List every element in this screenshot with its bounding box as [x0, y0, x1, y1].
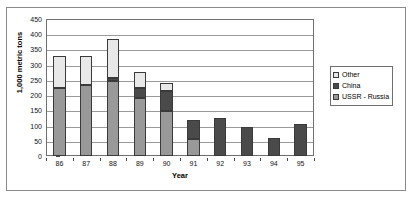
- chart-figure: 050100150200250300350400450 1,000 metric…: [0, 0, 413, 199]
- y-tick-label: 0: [38, 153, 42, 160]
- x-tick-mark: [260, 158, 261, 161]
- gridline: [47, 96, 313, 97]
- legend-item[interactable]: China: [333, 81, 389, 91]
- gridline: [47, 81, 313, 82]
- legend-item[interactable]: USSR - Russia: [333, 92, 389, 102]
- x-tick-mark: [234, 158, 235, 161]
- x-tick-label: 91: [180, 160, 207, 167]
- x-tick-mark: [207, 158, 208, 161]
- x-tick-mark: [73, 158, 74, 161]
- x-tick-label: 94: [260, 160, 287, 167]
- gridlines: [47, 20, 313, 155]
- x-tick-mark: [180, 158, 181, 161]
- x-tick-mark: [314, 158, 315, 161]
- x-tick-label: 92: [207, 160, 234, 167]
- x-tick-label: 87: [73, 160, 100, 167]
- y-tick-label: 50: [34, 137, 42, 144]
- legend-label: USSR - Russia: [342, 93, 389, 101]
- y-tick-label: 150: [30, 107, 42, 114]
- gridline: [47, 66, 313, 67]
- x-axis: 86878889909192939495: [46, 158, 314, 172]
- y-tick-label: 100: [30, 122, 42, 129]
- y-tick-label: 300: [30, 61, 42, 68]
- y-tick-label: 450: [30, 16, 42, 23]
- plot-area: [46, 19, 314, 156]
- y-tick-label: 200: [30, 92, 42, 99]
- gridline: [47, 111, 313, 112]
- x-tick-mark: [100, 158, 101, 161]
- x-tick-mark: [153, 158, 154, 161]
- x-tick-label: 93: [234, 160, 261, 167]
- x-tick-mark: [287, 158, 288, 161]
- x-tick-label: 89: [126, 160, 153, 167]
- x-tick-label: 90: [153, 160, 180, 167]
- gridline: [47, 127, 313, 128]
- y-axis-title: 1,000 metric tons: [15, 13, 24, 113]
- gridline: [47, 50, 313, 51]
- y-tick-label: 250: [30, 76, 42, 83]
- y-tick-label: 350: [30, 46, 42, 53]
- x-tick-mark: [126, 158, 127, 161]
- legend-swatch-icon: [333, 83, 339, 89]
- legend-swatch-icon: [333, 72, 339, 78]
- legend-swatch-icon: [333, 94, 339, 100]
- legend-label: Other: [342, 71, 360, 79]
- y-tick-mark: [56, 156, 60, 157]
- x-tick-label: 95: [287, 160, 314, 167]
- x-tick-label: 86: [46, 160, 73, 167]
- chart-legend: OtherChinaUSSR - Russia: [330, 66, 393, 106]
- y-tick-label: 400: [30, 31, 42, 38]
- x-axis-title: Year: [46, 171, 314, 180]
- legend-label: China: [342, 82, 360, 90]
- gridline: [47, 35, 313, 36]
- gridline: [47, 142, 313, 143]
- x-tick-label: 88: [100, 160, 127, 167]
- x-tick-mark: [46, 158, 47, 161]
- legend-item[interactable]: Other: [333, 70, 389, 80]
